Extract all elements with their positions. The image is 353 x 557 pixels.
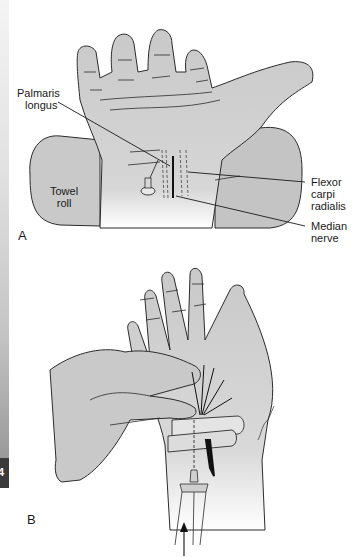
label-flexor-line3: radialis [311,200,346,212]
label-flexor-line1: Flexor [311,176,346,188]
towel-roll-left [30,136,100,226]
label-towel-roll: Towel roll [50,185,78,209]
syringe-b [180,484,208,492]
label-palmaris-line2: longus [17,99,60,111]
label-median-line1: Median [311,220,347,232]
label-palmaris-longus: Palmaris longus [17,87,60,111]
panel-letter-b: B [27,512,36,527]
label-flexor-line2: carpi [311,188,346,200]
panel-letter-a: A [18,228,27,243]
label-median-nerve: Median nerve [311,220,347,244]
panel-b-drawing [50,268,274,556]
label-towel-line2: roll [50,197,78,209]
label-median-line2: nerve [311,232,347,244]
wrist-block-illustration [0,0,353,557]
label-flexor-carpi-radialis: Flexor carpi radialis [311,176,346,212]
label-towel-line1: Towel [50,185,78,197]
label-palmaris-line1: Palmaris [17,87,60,99]
